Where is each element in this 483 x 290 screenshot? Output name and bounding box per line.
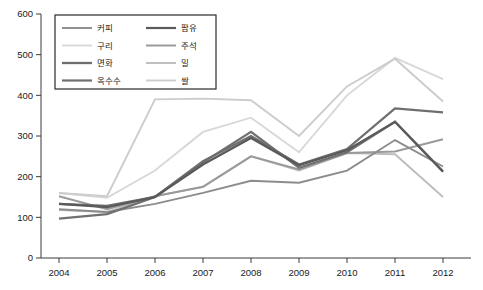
y-tick-label: 500 [17,49,33,60]
x-tick-label: 2011 [385,267,405,278]
x-tick-label: 2007 [192,267,213,278]
x-tick-label: 2012 [432,267,453,278]
x-tick-label: 2010 [336,267,357,278]
x-tick-label: 2005 [96,267,117,278]
legend-label-1: 팜유 [181,23,197,33]
legend-label-4: 면화 [97,58,113,68]
x-tick-label: 2006 [144,267,165,278]
x-tick-label: 2009 [288,267,309,278]
legend: 커피팜유구리주석면화밀옥수수쌀 [55,15,216,89]
legend-label-2: 구리 [97,41,113,51]
x-tick-label: 2004 [48,267,69,278]
x-tick-label: 2008 [240,267,261,278]
y-tick-label: 300 [17,130,33,141]
series-line-4 [59,122,443,207]
y-tick-label: 0 [28,252,33,263]
y-tick-label: 400 [17,90,33,101]
legend-label-5: 밀 [181,58,189,68]
legend-label-3: 주석 [181,41,197,51]
y-tick-label: 600 [17,8,33,19]
y-tick-label: 100 [17,212,33,223]
legend-label-6: 옥수수 [97,76,121,86]
series-line-5 [59,139,443,209]
legend-label-7: 쌀 [181,76,189,86]
chart-container: 0100200300400500600200420052006200720082… [0,0,483,290]
y-tick-label: 200 [17,171,33,182]
line-chart: 0100200300400500600200420052006200720082… [0,0,483,290]
legend-label-0: 커피 [97,23,113,33]
